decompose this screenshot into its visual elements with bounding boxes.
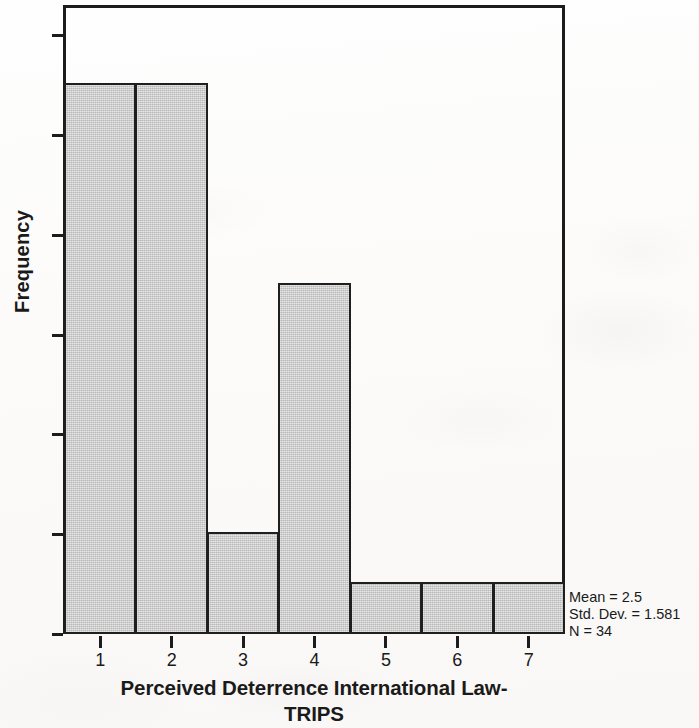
- histogram-bar: [493, 582, 565, 634]
- histogram-bar: [207, 532, 279, 634]
- x-tick-mark: [313, 636, 316, 648]
- stat-n: N = 34: [569, 623, 697, 640]
- histogram-bar: [135, 83, 207, 634]
- x-tick-label: 5: [364, 650, 407, 670]
- x-tick-mark: [170, 636, 173, 648]
- x-tick-mark: [384, 636, 387, 648]
- y-axis-title: Frequency: [11, 202, 34, 322]
- x-axis-title: Perceived Deterrence International Law- …: [58, 675, 570, 727]
- stat-std-dev: Std. Dev. = 1.581: [569, 606, 697, 623]
- x-tick-mark: [456, 636, 459, 648]
- x-tick-label: 2: [150, 650, 193, 670]
- y-tick-mark: [52, 134, 63, 137]
- x-tick-label: 4: [293, 650, 336, 670]
- x-tick-label: 3: [222, 650, 265, 670]
- y-tick-mark: [52, 34, 63, 37]
- x-tick-mark: [527, 636, 530, 648]
- y-tick-mark: [52, 533, 63, 536]
- x-tick-label: 6: [436, 650, 479, 670]
- y-tick-mark: [52, 633, 63, 636]
- x-tick-mark: [242, 636, 245, 648]
- x-axis-title-line2: TRIPS: [284, 702, 344, 725]
- x-axis-title-line1: Perceived Deterrence International Law-: [121, 676, 508, 699]
- x-tick-mark: [99, 636, 102, 648]
- y-tick-mark: [52, 234, 63, 237]
- x-tick-label: 7: [507, 650, 550, 670]
- stat-mean: Mean = 2.5: [569, 589, 697, 606]
- y-tick-mark: [52, 433, 63, 436]
- statistics-annotation: Mean = 2.5 Std. Dev. = 1.581 N = 34: [569, 589, 697, 640]
- histogram-bar: [64, 83, 136, 634]
- histogram-bar: [421, 582, 493, 634]
- x-tick-label: 1: [79, 650, 122, 670]
- y-tick-mark: [52, 334, 63, 337]
- histogram-figure: Frequency 121086420 1234567 Perceived De…: [0, 0, 699, 728]
- bars-container: [64, 6, 564, 634]
- histogram-bar: [350, 582, 422, 634]
- histogram-bar: [278, 283, 350, 634]
